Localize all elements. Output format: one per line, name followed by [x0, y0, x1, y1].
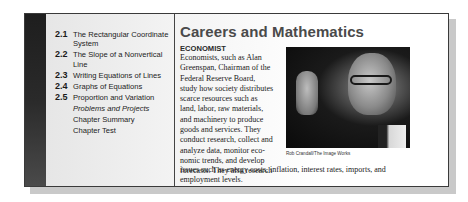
body-line: land, labor, raw materials, — [180, 104, 284, 114]
body-line: analyze data, monitor eco- — [180, 146, 284, 156]
body-line: Federal Reserve Board, — [180, 74, 284, 84]
section-number: 2.2 — [55, 50, 73, 69]
section-number: 2.5 — [55, 93, 73, 102]
body-line: and machinery to produce — [180, 115, 284, 125]
toc-item-2-3: 2.3 Writing Equations of Lines — [55, 71, 171, 80]
raised-hand — [296, 71, 318, 115]
body-line: study how society distributes — [180, 84, 284, 94]
toc-item-2-5: 2.5 Proportion and Variation — [55, 93, 171, 102]
section-title: The Slope of a Nonvertical Line — [73, 50, 171, 69]
body-line: conduct research, collect and — [180, 135, 284, 145]
toc-item-problems-and-projects: Problems and Projects — [55, 104, 171, 113]
section-number: 2.4 — [55, 82, 73, 91]
body-line: goods and services. They — [180, 125, 284, 135]
body-line: issues such as energy costs, inflation, … — [180, 165, 450, 175]
section-title: Problems and Projects — [55, 104, 171, 113]
toc-item-chapter-test: Chapter Test — [55, 126, 171, 135]
chapter-table-of-contents: 2.1 The Rectangular Coordinate System 2.… — [55, 30, 171, 137]
section-title: Graphs of Equations — [73, 82, 171, 91]
toc-item-2-1: 2.1 The Rectangular Coordinate System — [55, 30, 171, 49]
body-line: scarce resources such as — [180, 94, 284, 104]
economist-photo — [286, 47, 410, 148]
toc-item-chapter-summary: Chapter Summary — [55, 115, 171, 124]
photo-credit: Rob Crandall/The Image Works — [286, 151, 350, 156]
section-title: Proportion and Variation — [73, 93, 171, 102]
chapter-color-bar — [25, 14, 46, 186]
eyeglasses — [350, 75, 392, 85]
section-title: The Rectangular Coordinate System — [73, 30, 171, 49]
toc-item-2-4: 2.4 Graphs of Equations — [55, 82, 171, 91]
shirt-collar — [378, 125, 406, 148]
chapter-opener-panel: 2.1 The Rectangular Coordinate System 2.… — [24, 13, 449, 187]
feature-body: Economists, such as Alan Greenspan, Chai… — [180, 53, 284, 177]
body-line: Greenspan, Chairman of the — [180, 63, 284, 73]
section-title: Chapter Test — [55, 126, 171, 135]
column-divider — [174, 14, 175, 186]
toc-item-2-2: 2.2 The Slope of a Nonvertical Line — [55, 50, 171, 69]
feature-body-continued: issues such as energy costs, inflation, … — [180, 165, 450, 186]
body-line: employment levels. — [180, 175, 450, 185]
section-title: Writing Equations of Lines — [73, 71, 171, 80]
body-line: Economists, such as Alan — [180, 53, 284, 63]
section-number: 2.3 — [55, 71, 73, 80]
section-number: 2.1 — [55, 30, 73, 49]
section-title: Chapter Summary — [55, 115, 171, 124]
feature-title: Careers and Mathematics — [180, 23, 445, 41]
